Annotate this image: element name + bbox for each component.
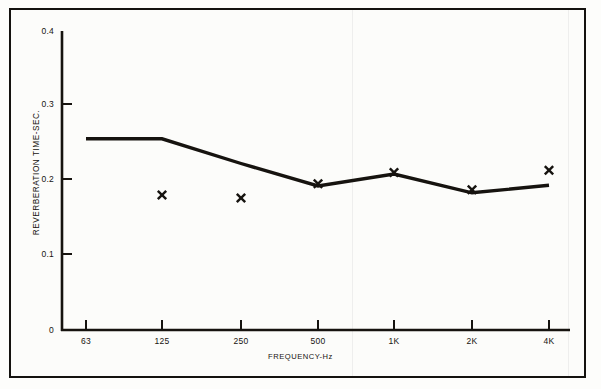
x-marker <box>237 194 245 202</box>
y-axis-ticks <box>62 104 72 254</box>
chart-plot-area <box>0 0 601 389</box>
x-tick-label-250: 250 <box>221 336 261 346</box>
chart-page: 0 0.1 0.2 0.3 0.4 63 125 250 500 1K 2K 4… <box>0 0 601 389</box>
x-tick-label-2k: 2K <box>452 336 492 346</box>
x-tick-label-125: 125 <box>142 336 182 346</box>
x-axis-title: FREQUENCY-Hz <box>0 352 601 361</box>
x-axis-ticks <box>86 320 549 330</box>
x-tick-label-1k: 1K <box>374 336 414 346</box>
x-tick-label-4k: 4K <box>529 336 569 346</box>
y-tick-label-0: 0 <box>20 325 54 335</box>
x-marker <box>545 166 553 174</box>
x-tick-label-500: 500 <box>298 336 338 346</box>
y-axis-title: REVERBERATION TIME-SEC. <box>32 83 41 263</box>
data-series-markers <box>158 166 553 202</box>
x-tick-label-63: 63 <box>66 336 106 346</box>
x-marker <box>158 191 166 199</box>
y-tick-label-0-4: 0.4 <box>20 26 54 36</box>
